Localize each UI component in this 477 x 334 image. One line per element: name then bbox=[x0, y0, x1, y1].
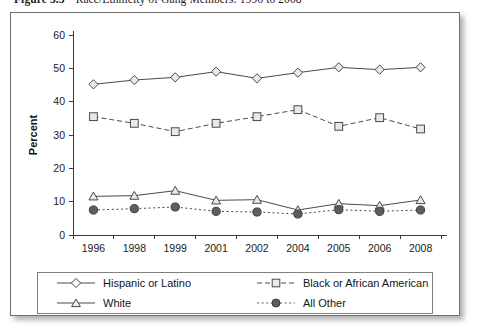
data-point bbox=[171, 203, 179, 211]
legend-label: White bbox=[103, 297, 131, 309]
x-axis-tick-label: 2001 bbox=[204, 242, 228, 254]
data-point bbox=[130, 205, 138, 213]
data-point bbox=[416, 196, 425, 204]
data-point bbox=[89, 80, 98, 89]
legend-item-white: White bbox=[38, 296, 238, 310]
data-point bbox=[253, 208, 261, 216]
series-hispanic-or-latino bbox=[89, 63, 425, 89]
data-point bbox=[89, 206, 97, 214]
data-point bbox=[294, 210, 302, 218]
y-axis-tick-label: 40 bbox=[53, 95, 65, 107]
data-point bbox=[253, 113, 261, 121]
figure-number: Figure 3.3 bbox=[14, 0, 65, 5]
x-axis-tick-label: 2006 bbox=[368, 242, 392, 254]
y-axis-tick-label: 60 bbox=[53, 29, 65, 41]
y-axis-tick-label: 10 bbox=[53, 195, 65, 207]
legend-item-hispanic-or-latino: Hispanic or Latino bbox=[38, 276, 238, 290]
data-point bbox=[416, 63, 425, 72]
data-point bbox=[171, 128, 179, 136]
series-black-or-african-american bbox=[90, 106, 425, 136]
data-point bbox=[171, 186, 180, 194]
data-point bbox=[375, 65, 384, 74]
data-point bbox=[252, 74, 261, 83]
data-point bbox=[212, 119, 220, 127]
data-point bbox=[376, 207, 384, 215]
figure-frame: 0102030405060Percent19961998199920012002… bbox=[10, 12, 460, 316]
figure-caption: Figure 3.3Race/Ethnicity of Gang Members… bbox=[14, 0, 464, 9]
x-axis-tick-label: 2004 bbox=[286, 242, 310, 254]
data-point bbox=[335, 206, 343, 214]
x-axis-tick-label: 2002 bbox=[245, 242, 269, 254]
x-axis-tick-label: 1996 bbox=[82, 242, 106, 254]
data-point bbox=[293, 68, 302, 77]
legend-item-black-or-african-american: Black or African American bbox=[238, 276, 434, 290]
data-point bbox=[416, 206, 424, 214]
data-point bbox=[130, 119, 138, 127]
x-axis-tick-label: 1999 bbox=[164, 242, 188, 254]
figure-title: Race/Ethnicity of Gang Members: 1996 to … bbox=[76, 0, 302, 5]
x-axis-tick-label: 1998 bbox=[123, 242, 147, 254]
data-point bbox=[90, 113, 98, 121]
data-point bbox=[212, 67, 221, 76]
y-axis-tick-label: 30 bbox=[53, 129, 65, 141]
legend-label: Hispanic or Latino bbox=[103, 277, 191, 289]
x-axis-tick-label: 2008 bbox=[409, 242, 433, 254]
y-axis-title: Percent bbox=[27, 114, 39, 155]
data-point bbox=[294, 106, 302, 114]
data-point bbox=[376, 114, 384, 122]
legend-swatch-triangle-icon bbox=[56, 296, 96, 310]
data-point bbox=[335, 122, 343, 130]
line-chart: 0102030405060Percent19961998199920012002… bbox=[11, 13, 461, 317]
legend-item-all-other: All Other bbox=[238, 296, 434, 310]
data-point bbox=[212, 207, 220, 215]
data-point bbox=[334, 63, 343, 72]
legend-label: All Other bbox=[303, 297, 346, 309]
legend-label: Black or African American bbox=[303, 277, 428, 289]
y-axis-tick-label: 20 bbox=[53, 162, 65, 174]
data-point bbox=[417, 125, 425, 133]
data-point bbox=[171, 73, 180, 82]
data-point bbox=[130, 75, 139, 84]
legend-swatch-diamond-icon bbox=[56, 276, 96, 290]
legend-swatch-circle-icon bbox=[256, 296, 296, 310]
legend-swatch-square-icon bbox=[256, 276, 296, 290]
x-axis-tick-label: 2005 bbox=[327, 242, 351, 254]
y-axis-tick-label: 50 bbox=[53, 62, 65, 74]
chart-legend: Hispanic or Latino Black or African Amer… bbox=[37, 272, 433, 314]
y-axis-tick-label: 0 bbox=[59, 229, 65, 241]
